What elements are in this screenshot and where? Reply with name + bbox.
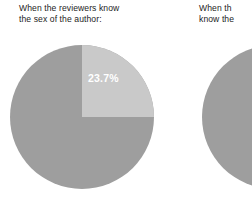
pie-chart-figure: { "figure": { "background_color": "#ffff… <box>0 0 252 201</box>
chart-caption-right-line1: When th <box>199 3 232 13</box>
chart-panel-left: When the reviewers know the sex of the a… <box>0 0 170 201</box>
chart-caption-right: When th know the <box>199 3 234 26</box>
pie-chart-left <box>10 45 154 189</box>
chart-caption-left-line1: When the reviewers know <box>19 3 119 13</box>
pie-slice-label-left: 23.7% <box>88 72 119 84</box>
chart-caption-left: When the reviewers know the sex of the a… <box>19 3 119 26</box>
chart-caption-right-line2: know the <box>199 14 234 24</box>
chart-caption-left-line2: the sex of the author: <box>19 14 102 24</box>
